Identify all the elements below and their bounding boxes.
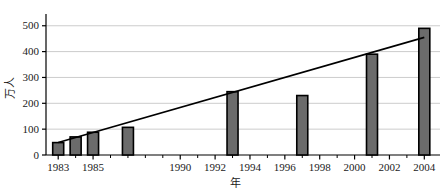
y-tick-label-400: 400 xyxy=(23,45,40,57)
x-axis-title: 年 xyxy=(230,176,241,189)
y-axis-title: 万人 xyxy=(4,77,16,99)
bar-1987 xyxy=(122,127,133,155)
bar-chart: 0100200300400500万人1983198519901992199419… xyxy=(0,0,446,194)
bar-2001 xyxy=(367,54,378,155)
x-tick-label-1998: 1998 xyxy=(309,161,332,173)
y-tick-label-0: 0 xyxy=(34,149,40,161)
plot-area-background xyxy=(46,18,440,155)
y-tick-label-500: 500 xyxy=(23,19,40,31)
bar-2004 xyxy=(419,28,430,155)
bar-1983 xyxy=(53,143,64,155)
x-tick-label-2004: 2004 xyxy=(413,161,436,173)
bar-1984 xyxy=(70,137,81,155)
x-tick-label-1990: 1990 xyxy=(169,161,192,173)
bar-1985 xyxy=(88,132,99,155)
x-tick-label-1983: 1983 xyxy=(47,161,70,173)
y-tick-label-300: 300 xyxy=(23,71,40,83)
bar-1993 xyxy=(227,92,238,155)
y-tick-label-100: 100 xyxy=(23,123,40,135)
chart-container: 0100200300400500万人1983198519901992199419… xyxy=(0,0,446,194)
x-tick-label-2002: 2002 xyxy=(378,161,400,173)
x-tick-label-1996: 1996 xyxy=(274,161,297,173)
x-tick-label-1985: 1985 xyxy=(82,161,105,173)
x-tick-label-1994: 1994 xyxy=(239,161,262,173)
x-tick-label-2000: 2000 xyxy=(344,161,367,173)
bar-1997 xyxy=(297,96,308,155)
x-tick-label-1992: 1992 xyxy=(204,161,226,173)
y-tick-label-200: 200 xyxy=(23,97,40,109)
